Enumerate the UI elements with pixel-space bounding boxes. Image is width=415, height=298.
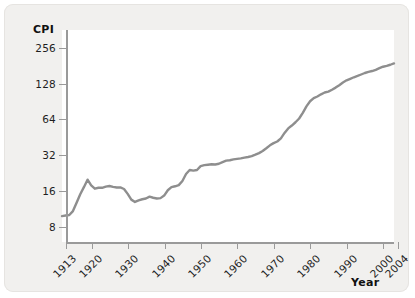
chart-card: CPI 8163264128256 1913192019301940195019… [4,4,409,292]
y-tick-label-256: 256 [35,42,56,54]
x-tick-1970 [274,242,275,249]
x-tick-label-1970: 1970 [258,252,286,280]
cpi-line-series [62,30,394,242]
y-tick-64 [59,119,66,120]
x-tick-label-1980: 1980 [295,252,323,280]
y-tick-8 [59,227,66,228]
y-tick-128 [59,84,66,85]
x-tick-1990 [347,242,348,249]
y-tick-label-16: 16 [42,185,56,197]
x-tick-1960 [237,242,238,249]
x-tick-1920 [92,242,93,249]
x-tick-1930 [128,242,129,249]
y-tick-256 [59,48,66,49]
x-axis-title: Year [351,276,379,289]
cpi-line-path [62,63,394,216]
x-tick-label-1920: 1920 [76,252,104,280]
y-tick-label-8: 8 [49,221,56,233]
y-tick-label-32: 32 [42,149,56,161]
x-tick-2004 [398,242,399,249]
x-tick-label-1913: 1913 [51,252,79,280]
x-tick-1940 [165,242,166,249]
x-tick-label-1960: 1960 [222,252,250,280]
y-axis-title: CPI [33,23,54,36]
y-tick-32 [59,155,66,156]
x-tick-label-1930: 1930 [113,252,141,280]
y-tick-16 [59,191,66,192]
y-tick-label-128: 128 [35,78,56,90]
y-tick-label-64: 64 [42,113,56,125]
x-axis: 1913192019301940195019601970198019902000… [66,242,394,244]
x-tick-label-1950: 1950 [186,252,214,280]
x-tick-2000 [383,242,384,249]
x-tick-1980 [310,242,311,249]
y-axis: 8163264128256 [66,30,68,244]
x-tick-label-1940: 1940 [149,252,177,280]
x-tick-1950 [201,242,202,249]
plot-area [62,30,394,242]
x-tick-1913 [66,242,67,249]
